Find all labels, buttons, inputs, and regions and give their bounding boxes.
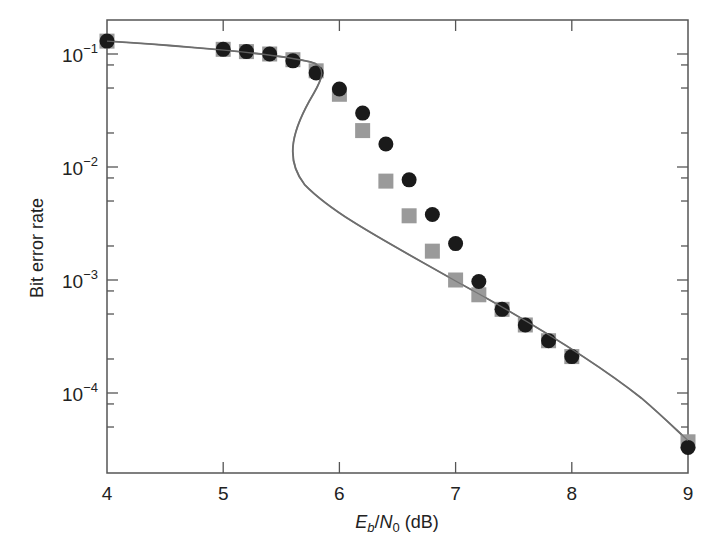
circle-marker: [285, 53, 300, 68]
axis-labels: Bit error rate Eb/N0 (dB): [27, 198, 439, 535]
square-marker: [448, 273, 463, 288]
y-tick-label: 10−4: [62, 380, 98, 405]
axes: 45678910−110−210−310−4: [62, 20, 693, 504]
circle-marker: [471, 274, 486, 289]
circle-marker: [564, 349, 579, 364]
circle-markers: [100, 34, 696, 455]
circle-marker: [425, 207, 440, 222]
circle-marker: [332, 82, 347, 97]
ber-chart: 45678910−110−210−310−4 Bit error rate Eb…: [0, 0, 708, 548]
x-tick-label: 5: [218, 483, 229, 504]
y-tick-label: 10−2: [62, 154, 98, 179]
analytical-curve: [107, 41, 688, 440]
circle-marker: [402, 172, 417, 187]
x-tick-label: 7: [450, 483, 461, 504]
y-tick-label: 10−1: [62, 41, 98, 66]
circle-marker: [378, 136, 393, 151]
analytical-curve-line: [107, 41, 688, 440]
circle-marker: [541, 333, 556, 348]
square-marker: [471, 287, 486, 302]
plot-frame: [107, 20, 688, 473]
x-tick-label: 9: [683, 483, 694, 504]
square-marker: [378, 174, 393, 189]
circle-marker: [681, 440, 696, 455]
circle-marker: [355, 106, 370, 121]
y-tick-label: 10−3: [62, 267, 98, 292]
square-marker: [402, 208, 417, 223]
x-tick-label: 8: [567, 483, 578, 504]
circle-marker: [518, 317, 533, 332]
square-marker: [425, 244, 440, 259]
square-marker: [355, 123, 370, 138]
y-axis-title: Bit error rate: [27, 198, 47, 298]
x-tick-label: 4: [102, 483, 113, 504]
square-markers: [100, 34, 696, 450]
x-tick-label: 6: [334, 483, 345, 504]
analytical-curve-overlay: [107, 41, 688, 440]
x-axis-title: Eb/N0 (dB): [355, 512, 439, 535]
circle-marker: [448, 236, 463, 251]
